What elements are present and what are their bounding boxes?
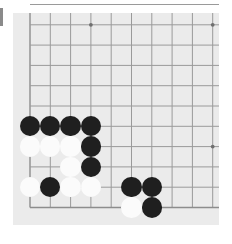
- white-stone[interactable]: [60, 136, 80, 156]
- black-stone[interactable]: [81, 136, 101, 156]
- white-stone[interactable]: [60, 177, 80, 197]
- white-stone[interactable]: [60, 157, 80, 177]
- star-point: [211, 23, 215, 27]
- go-board-app: [0, 0, 232, 244]
- white-stone[interactable]: [20, 136, 40, 156]
- star-point: [211, 145, 215, 149]
- black-stone[interactable]: [121, 177, 141, 197]
- star-point: [89, 23, 93, 27]
- white-stone[interactable]: [121, 197, 141, 217]
- black-stone[interactable]: [142, 197, 162, 217]
- black-stone[interactable]: [81, 157, 101, 177]
